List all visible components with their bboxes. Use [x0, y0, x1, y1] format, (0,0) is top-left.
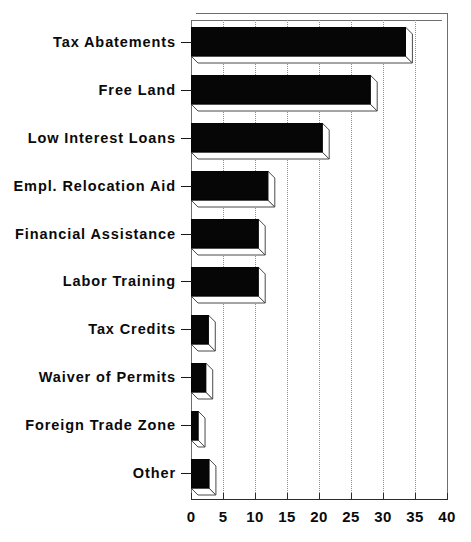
- bar-front-face: [191, 411, 198, 440]
- bar: [191, 75, 377, 111]
- x-axis-tick-0: [191, 493, 192, 500]
- y-axis-label-3: Low Interest Loans: [28, 130, 176, 146]
- y-axis-label-7: Tax Credits: [88, 321, 176, 337]
- x-axis-ticklabel-35: 35: [406, 508, 424, 525]
- bar-front-face: [191, 27, 405, 56]
- x-axis-ticklabel-30: 30: [374, 508, 392, 525]
- y-axis-label-9: Foreign Trade Zone: [25, 417, 176, 433]
- bar-bottom-face: [191, 104, 377, 111]
- x-axis-ticklabel-40: 40: [438, 508, 456, 525]
- bar: [191, 267, 265, 303]
- bar-3d-shape: [191, 411, 207, 449]
- x-axis-tick-10: [255, 493, 256, 500]
- y-axis-tick: [181, 473, 192, 474]
- bar-side-face: [198, 411, 205, 447]
- y-axis-tick: [181, 234, 192, 235]
- bar-front-face: [191, 315, 208, 344]
- y-axis-label-8: Waiver of Permits: [39, 369, 176, 385]
- y-axis-label-6: Labor Training: [63, 273, 176, 289]
- x-axis-tick-40: [447, 493, 448, 500]
- bar: [191, 411, 205, 447]
- y-axis-tick: [181, 377, 192, 378]
- bar-side-face: [268, 171, 275, 207]
- bar-front-face: [191, 219, 258, 248]
- y-axis-tick: [181, 42, 192, 43]
- bar-3d-shape: [191, 219, 267, 257]
- y-axis-label-5: Financial Assistance: [15, 226, 176, 242]
- bar: [191, 219, 265, 255]
- x-axis-ticklabel-0: 0: [187, 508, 196, 525]
- bar-front-face: [191, 459, 209, 488]
- plot-frame-top-inner: [191, 20, 442, 21]
- y-axis-label-10: Other: [133, 465, 176, 481]
- bar-3d-shape: [191, 315, 217, 353]
- bar-side-face: [258, 267, 265, 303]
- x-axis-tick-35: [415, 493, 416, 500]
- y-axis-tick: [181, 90, 192, 91]
- bar-bottom-face: [191, 200, 275, 207]
- bar: [191, 171, 275, 207]
- x-axis-tick-5: [223, 493, 224, 500]
- bar-side-face: [405, 27, 412, 63]
- bar-3d-shape: [191, 75, 379, 113]
- bar-bottom-face: [191, 56, 412, 63]
- bar-bottom-face: [191, 248, 265, 255]
- y-axis-label-4: Empl. Relocation Aid: [14, 178, 176, 194]
- bar-side-face: [208, 315, 215, 351]
- bar-bottom-face: [191, 152, 329, 159]
- bar: [191, 459, 216, 495]
- bar-front-face: [191, 123, 322, 152]
- bar-3d-shape: [191, 123, 331, 161]
- x-axis-ticklabel-5: 5: [219, 508, 228, 525]
- x-axis-ticklabel-10: 10: [246, 508, 264, 525]
- bar: [191, 27, 412, 63]
- bar-side-face: [206, 363, 213, 399]
- x-axis-tick-15: [287, 493, 288, 500]
- x-axis-ticklabel-15: 15: [278, 508, 296, 525]
- gridline-x-30: [383, 20, 384, 499]
- plot-frame-right-offset: [447, 13, 448, 495]
- bar-front-face: [191, 267, 258, 296]
- y-axis-tick: [181, 425, 192, 426]
- y-axis-label-1: Tax Abatements: [53, 34, 176, 50]
- bar-bottom-face: [191, 296, 265, 303]
- x-axis-tick-30: [383, 493, 384, 500]
- bar: [191, 123, 329, 159]
- bar: [191, 315, 215, 351]
- x-axis-ticklabel-25: 25: [342, 508, 360, 525]
- y-axis-tick: [181, 138, 192, 139]
- plot-frame-top-offset: [196, 13, 448, 14]
- bar-front-face: [191, 171, 268, 200]
- bar-side-face: [258, 219, 265, 255]
- bar-side-face: [370, 75, 377, 111]
- bar-3d-shape: [191, 459, 218, 497]
- bar-3d-shape: [191, 363, 215, 401]
- y-axis-tick: [181, 186, 192, 187]
- bar-side-face: [322, 123, 329, 159]
- y-axis-label-2: Free Land: [99, 82, 176, 98]
- x-axis-ticklabel-20: 20: [310, 508, 328, 525]
- bar-3d-shape: [191, 171, 277, 209]
- gridline-x-35: [415, 20, 416, 499]
- bar-front-face: [191, 363, 206, 392]
- x-axis-tick-20: [319, 493, 320, 500]
- y-axis-tick: [181, 329, 192, 330]
- bar-3d-shape: [191, 27, 414, 65]
- x-axis-tick-25: [351, 493, 352, 500]
- bar: [191, 363, 213, 399]
- bar-front-face: [191, 75, 370, 104]
- bar-side-face: [209, 459, 216, 495]
- bar-3d-shape: [191, 267, 267, 305]
- y-axis-tick: [181, 281, 192, 282]
- horizontal-bar-chart: Tax AbatementsFree LandLow Interest Loan…: [0, 0, 471, 542]
